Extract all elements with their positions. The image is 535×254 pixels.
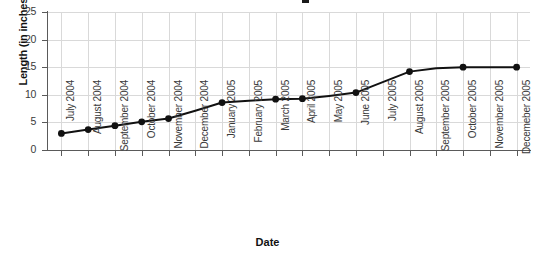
data-point-marker — [138, 118, 145, 125]
x-tick-label: August 2004 — [92, 80, 103, 160]
x-tick-label: August 2005 — [414, 80, 425, 160]
data-point-marker — [299, 95, 306, 102]
data-point-marker — [165, 115, 172, 122]
x-tick-mark — [222, 151, 223, 156]
x-tick-mark — [142, 151, 143, 156]
y-tick-label: 25 — [10, 5, 36, 17]
x-tick-mark — [436, 151, 437, 156]
x-tick-label: December 2004 — [199, 80, 210, 160]
x-tick-label: May 2005 — [333, 80, 344, 160]
y-tick-label: 5 — [10, 115, 36, 127]
x-tick-mark — [356, 151, 357, 156]
y-tick-label: 0 — [10, 143, 36, 155]
x-tick-mark — [329, 151, 330, 156]
x-tick-label: February 2005 — [253, 80, 264, 160]
data-point-marker — [112, 122, 119, 129]
x-tick-mark — [276, 151, 277, 156]
y-tick-label: 10 — [10, 88, 36, 100]
x-tick-mark — [61, 151, 62, 156]
x-tick-label: November 2004 — [173, 80, 184, 160]
x-tick-mark — [302, 151, 303, 156]
x-tick-mark — [383, 151, 384, 156]
data-point-marker — [219, 99, 226, 106]
x-tick-mark — [169, 151, 170, 156]
data-point-marker — [272, 96, 279, 103]
data-point-marker — [513, 64, 520, 71]
x-tick-mark — [463, 151, 464, 156]
x-tick-label: October 2005 — [467, 80, 478, 160]
x-tick-label: Decemeber 2005 — [521, 80, 532, 160]
x-tick-label: April 2005 — [306, 80, 317, 160]
y-tick-label: 15 — [10, 60, 36, 72]
data-point-marker — [406, 68, 413, 75]
y-tick-label: 20 — [10, 33, 36, 45]
x-tick-mark — [115, 151, 116, 156]
x-tick-mark — [195, 151, 196, 156]
x-tick-label: June 2005 — [360, 80, 371, 160]
x-tick-mark — [517, 151, 518, 156]
x-tick-mark — [88, 151, 89, 156]
x-tick-mark — [490, 151, 491, 156]
x-tick-label: September 2005 — [440, 80, 451, 160]
x-axis-title: Date — [0, 236, 535, 248]
x-tick-label: March 2005 — [280, 80, 291, 160]
x-tick-mark — [410, 151, 411, 156]
x-tick-mark — [249, 151, 250, 156]
data-point-marker — [353, 89, 360, 96]
data-point-marker — [58, 130, 65, 137]
top-edge-artifact — [302, 0, 309, 3]
x-tick-label: November 2005 — [494, 80, 505, 160]
data-point-marker — [85, 126, 92, 133]
x-tick-label: October 2004 — [146, 80, 157, 160]
x-tick-label: July 2005 — [387, 80, 398, 160]
x-tick-label: September 2004 — [119, 80, 130, 160]
x-tick-label: January 2005 — [226, 80, 237, 160]
data-point-marker — [460, 64, 467, 71]
line-chart: Length (in inches) 0510152025 July 2004A… — [0, 0, 535, 254]
x-tick-label: July 2004 — [65, 80, 76, 160]
